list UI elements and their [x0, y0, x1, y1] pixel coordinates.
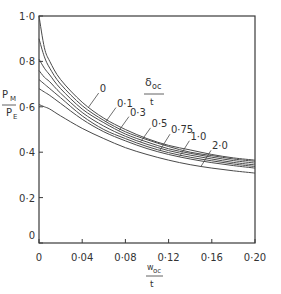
series-line-0-75: [39, 80, 255, 167]
legend-title-numerator: δ: [145, 76, 152, 89]
x-tick-label: 0·12: [157, 252, 179, 263]
ylabel-num-subscript: M: [10, 95, 16, 103]
y-tick-label: 0·8: [19, 56, 35, 67]
leader-line: [89, 93, 99, 107]
legend-title-subscript: oc: [152, 82, 161, 91]
ylabel-denominator: P: [6, 107, 12, 118]
series-label: 0·5: [152, 118, 168, 129]
x-tick-label: 0: [36, 252, 42, 263]
plot-border: [39, 16, 255, 243]
series-label: 2·0: [212, 140, 228, 151]
chart: 00·10·30·50·751·02·0 00·040·080·120·160·…: [0, 0, 281, 294]
xlabel-subscript: oc: [153, 267, 161, 275]
y-tick-label: 0·6: [19, 102, 35, 113]
ylabel-den-subscript: E: [13, 113, 17, 121]
series-label: 0: [100, 83, 106, 94]
y-tick-label: 0·2: [19, 193, 35, 204]
legend-title: δoct: [144, 76, 164, 107]
y-tick-label: 0: [29, 230, 35, 241]
leader-line: [106, 108, 116, 122]
x-tick-label: 0·08: [114, 252, 136, 263]
x-tick-label: 0·04: [71, 252, 93, 263]
x-tick-label: 0·16: [201, 252, 223, 263]
series-label: 1·0: [190, 131, 206, 142]
y-tick-label: 0·4: [19, 147, 35, 158]
y-axis-label: PMPE: [2, 89, 17, 121]
plot-frame: [39, 16, 255, 243]
series-label: 0·3: [130, 107, 146, 118]
legend-title-denominator: t: [150, 97, 154, 107]
x-tick-label: 0·20: [244, 252, 266, 263]
ylabel-numerator: P: [2, 89, 8, 100]
x-axis-label: woct: [146, 263, 163, 289]
xlabel-denominator: t: [150, 279, 154, 289]
y-tick-label: 1·0: [19, 11, 35, 22]
